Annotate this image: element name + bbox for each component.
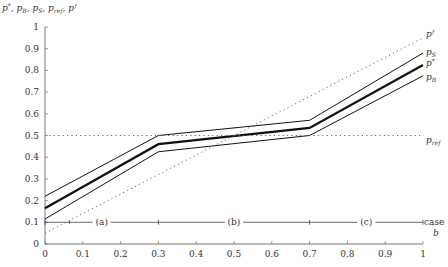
case-segment-label: (a) [96, 217, 108, 227]
chart: p*, pB, pS, pref, p† 00.10.20.30.40.50.6… [0, 0, 448, 267]
y-tick-label: 0.7 [25, 87, 40, 97]
y-tick-label: 0.5 [25, 131, 40, 141]
series-pS-line [45, 53, 423, 196]
x-tick-label: 0.8 [340, 249, 355, 259]
case-line: (a)(b)(c)case [45, 217, 444, 227]
x-tick-label: 0 [42, 249, 48, 259]
series-label: p* [426, 57, 435, 68]
case-segment-label: (c) [360, 217, 372, 227]
y-tick-label: 0.4 [25, 152, 40, 162]
y-tick-label: 0 [33, 239, 39, 249]
case-label: case [424, 217, 444, 227]
x-tick-label: 0.2 [113, 249, 127, 259]
series-lines: pSp*pBp†pref [45, 28, 442, 233]
y-tick-label: 0.1 [25, 217, 39, 227]
x-tick-label: 0.3 [151, 249, 166, 259]
y-axis-label: p*, pB, pS, pref, p† [2, 2, 78, 15]
x-tick-label: 0.9 [378, 249, 393, 259]
series-label: pref [426, 135, 442, 147]
y-tick-label: 0.9 [25, 44, 40, 54]
case-segment-label: (b) [228, 217, 241, 227]
x-tick-label: 1 [420, 249, 426, 259]
y-tick-label: 0.3 [25, 174, 40, 184]
series-label: p† [426, 28, 436, 39]
x-axis-label: b [433, 228, 439, 238]
x-tick-label: 0.1 [76, 249, 90, 259]
y-tick-label: 0.2 [25, 196, 39, 206]
x-tick-label: 0.7 [302, 249, 317, 259]
x-tick-label: 0.6 [265, 249, 280, 259]
y-tick-label: 0.8 [25, 65, 40, 75]
y-tick-label: 1 [33, 22, 39, 32]
y-tick-label: 0.6 [25, 109, 40, 119]
series-label: pB [426, 72, 437, 83]
x-tick-label: 0.4 [189, 249, 204, 259]
x-tick-label: 0.5 [227, 249, 242, 259]
